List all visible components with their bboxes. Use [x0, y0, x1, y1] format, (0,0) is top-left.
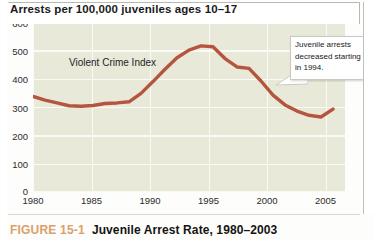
- x-tick-2005: 2005: [309, 195, 343, 206]
- figure-right-rule: [363, 2, 364, 214]
- figure-container: 600 500 400 300 200 100 0 1980 1985 1990…: [0, 0, 373, 240]
- callout-text: Juvenile arrests decreased starting in 1…: [295, 39, 369, 74]
- callout-annotation: Juvenile arrests decreased starting in 1…: [290, 36, 371, 86]
- x-tick-1990: 1990: [133, 195, 167, 206]
- chart-title: Arrests per 100,000 juveniles ages 10–17: [10, 3, 237, 15]
- caption-number: FIGURE 15-1: [10, 223, 85, 237]
- caption-title: Juvenile Arrest Rate, 1980–2003: [92, 223, 277, 237]
- page-right-margin: [364, 0, 373, 214]
- x-tick-1995: 1995: [192, 195, 226, 206]
- x-tick-2000: 2000: [250, 195, 284, 206]
- series-label-violent-crime-index: Violent Crime Index: [69, 57, 156, 68]
- x-tick-1985: 1985: [75, 195, 109, 206]
- figure-bottom-rule: [8, 214, 360, 215]
- figure-caption: FIGURE 15-1Juvenile Arrest Rate, 1980–20…: [10, 220, 277, 238]
- x-tick-1980: 1980: [16, 195, 50, 206]
- page-left-margin: [0, 0, 7, 240]
